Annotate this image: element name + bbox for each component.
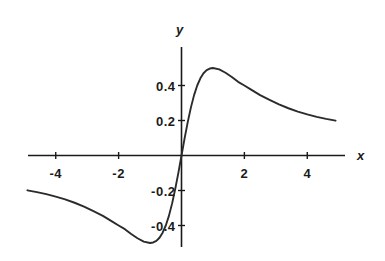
x-tick-label: -2	[112, 166, 125, 181]
y-tick-label: 0.2	[156, 113, 176, 128]
chart-figure: -4-2240.40.2-0.2-0.4 x y	[0, 0, 385, 261]
plot-canvas	[0, 0, 385, 261]
x-tick-label: 4	[303, 166, 311, 181]
x-axis-title: x	[357, 148, 365, 163]
axes-group	[28, 47, 345, 247]
y-tick-label: -0.2	[151, 183, 175, 198]
y-tick-label: 0.4	[156, 78, 176, 93]
x-tick-label: 2	[241, 166, 249, 181]
x-tick-label: -4	[49, 166, 62, 181]
y-axis-title: y	[176, 22, 184, 37]
y-tick-label: -0.4	[151, 218, 175, 233]
